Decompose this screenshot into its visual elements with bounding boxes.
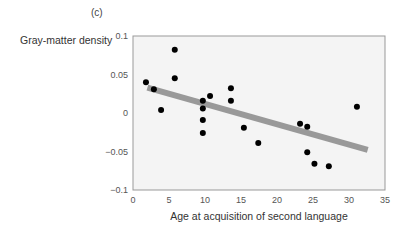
scatter-plot: −0.1−0.0500.050.1 05101520253035 xyxy=(0,0,411,230)
x-tick-label: 20 xyxy=(272,195,282,205)
data-point xyxy=(311,161,317,167)
x-tick-label: 10 xyxy=(200,195,210,205)
x-tick-label: 0 xyxy=(130,195,135,205)
data-point xyxy=(304,124,310,130)
data-point xyxy=(354,104,360,110)
data-point xyxy=(151,86,157,92)
y-tick-label: 0 xyxy=(123,108,128,118)
data-point xyxy=(207,93,213,99)
y-tick-label: −0.1 xyxy=(110,185,128,195)
data-point xyxy=(228,98,234,104)
data-point xyxy=(297,121,303,127)
data-point xyxy=(172,75,178,81)
data-point xyxy=(200,98,206,104)
y-tick-label: 0.1 xyxy=(115,31,128,41)
data-point xyxy=(200,117,206,123)
y-tick-label: −0.05 xyxy=(105,147,128,157)
x-tick-label: 30 xyxy=(344,195,354,205)
data-point xyxy=(255,140,261,146)
x-axis-ticks: 05101520253035 xyxy=(130,195,390,205)
x-tick-label: 35 xyxy=(380,195,390,205)
x-tick-label: 5 xyxy=(166,195,171,205)
y-axis-ticks: −0.1−0.0500.050.1 xyxy=(105,31,128,195)
data-point xyxy=(158,107,164,113)
data-point xyxy=(200,130,206,136)
plot-area xyxy=(133,36,385,190)
x-tick-label: 15 xyxy=(236,195,246,205)
data-point xyxy=(241,125,247,131)
data-point xyxy=(143,79,149,85)
data-point xyxy=(172,47,178,53)
x-tick-label: 25 xyxy=(308,195,318,205)
data-point xyxy=(228,85,234,91)
data-point xyxy=(200,105,206,111)
data-point xyxy=(326,163,332,169)
y-tick-label: 0.05 xyxy=(110,70,128,80)
data-point xyxy=(304,149,310,155)
